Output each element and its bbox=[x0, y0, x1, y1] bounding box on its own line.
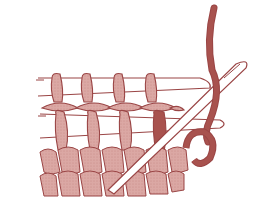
knitting-illustration bbox=[0, 0, 256, 210]
stitch-arcs bbox=[42, 103, 184, 111]
grafting-diagram bbox=[0, 0, 256, 210]
